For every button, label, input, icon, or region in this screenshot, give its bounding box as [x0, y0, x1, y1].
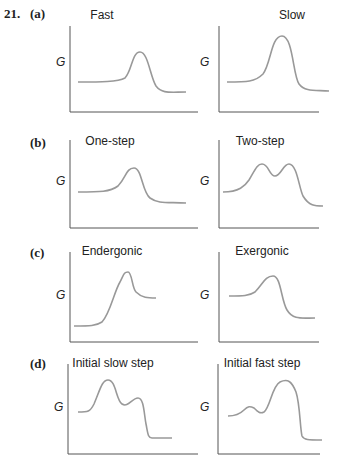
- curve-plot: [170, 342, 338, 458]
- energy-diagram-initial-fast-step: Initial fast step G: [170, 342, 320, 452]
- curve-plot: [40, 228, 190, 344]
- energy-diagram-two-step: Two-step G: [170, 118, 320, 228]
- energy-diagram-fast: Fast G: [40, 2, 190, 112]
- curve-plot: [170, 2, 338, 114]
- energy-diagram-one-step: One-step G: [40, 118, 190, 228]
- question-number: 21.: [4, 6, 20, 22]
- curve-plot: [40, 118, 190, 230]
- curve-plot: [40, 342, 190, 458]
- curve-plot: [170, 228, 338, 344]
- energy-diagram-endergonic: Endergonic G: [40, 228, 190, 338]
- curve-plot: [170, 118, 338, 230]
- energy-diagram-slow: Slow G: [170, 2, 320, 112]
- energy-diagram-exergonic: Exergonic G: [170, 228, 320, 338]
- energy-diagram-initial-slow-step: Initial slow step G: [40, 342, 190, 452]
- curve-plot: [40, 2, 190, 114]
